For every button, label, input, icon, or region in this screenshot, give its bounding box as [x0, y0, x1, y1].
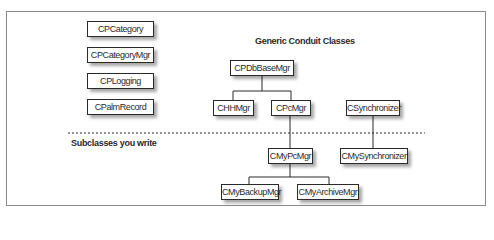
class-box-csynchronizer: CSynchronizer — [346, 100, 400, 116]
class-box-cmysynchronizer: CMySynchronizer — [340, 148, 408, 164]
class-box-cmybackupmgr: CMyBackupMgr — [221, 184, 279, 200]
class-box-cpcategorymgr: CPCategoryMgr — [87, 47, 154, 63]
class-box-cpcategory: CPCategory — [87, 21, 154, 37]
class-box-cmyarchivemgr: CMyArchiveMgr — [297, 184, 359, 200]
subclasses-title: Subclasses you write — [71, 138, 157, 148]
class-box-chhmgr: CHHMgr — [213, 100, 254, 116]
class-box-cpdbbasemgr: CPDbBaseMgr — [230, 60, 294, 76]
class-box-cpcmgr: CPcMgr — [271, 100, 311, 116]
class-box-cplogging: CPLogging — [87, 73, 154, 89]
class-box-cmypcmgr: CMyPcMgr — [268, 148, 313, 164]
generic-classes-title: Generic Conduit Classes — [255, 36, 355, 46]
class-box-cpalmrecord: CPalmRecord — [87, 99, 154, 115]
